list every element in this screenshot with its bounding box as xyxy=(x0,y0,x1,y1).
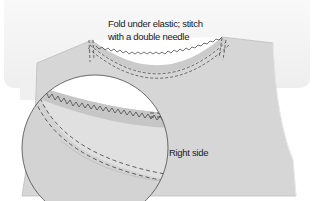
caption-line-1: Fold under elastic; stitch xyxy=(108,18,220,31)
caption-line-2: with a double needle xyxy=(108,31,220,44)
fabric-side-label: Right side xyxy=(169,147,208,158)
stitch-instruction-caption: Fold under elastic; stitch with a double… xyxy=(108,18,220,43)
diagram-canvas: Fold under elastic; stitch with a double… xyxy=(0,0,312,201)
